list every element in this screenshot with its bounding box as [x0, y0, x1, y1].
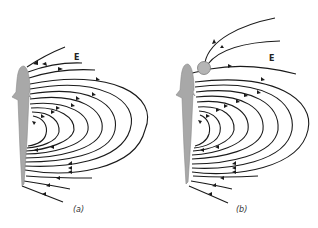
panel-b-object	[198, 62, 211, 75]
panel-a-caption: (a)	[73, 205, 84, 214]
panel-b-caption: (b)	[236, 205, 247, 214]
panel-a-field-label: E	[74, 53, 79, 62]
panel-b-fish	[176, 64, 195, 184]
electric-fish-field-figure: E E (a) (b)	[0, 0, 318, 228]
panel-b-field-label: E	[269, 54, 274, 63]
panel-b-diagram	[0, 0, 318, 228]
panel-b-field-lines	[189, 18, 309, 203]
